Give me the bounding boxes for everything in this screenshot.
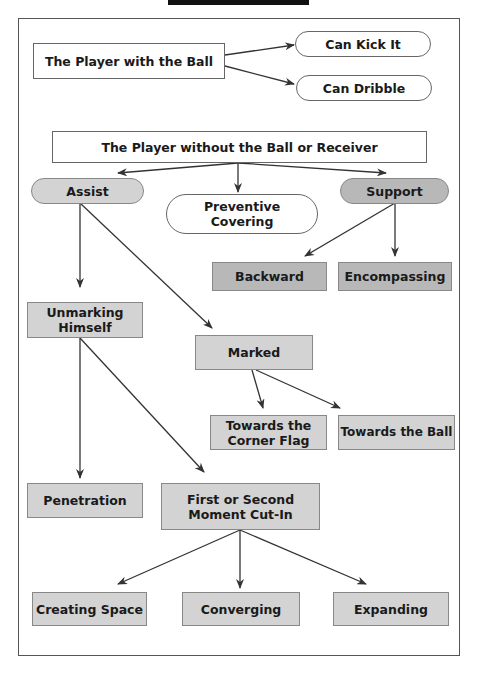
node-unmarking-himself: Unmarking Himself bbox=[27, 302, 143, 338]
node-first-second-cut-in: First or Second Moment Cut-In bbox=[161, 483, 320, 530]
node-support: Support bbox=[340, 178, 449, 204]
title-bar bbox=[168, 0, 309, 5]
node-towards-corner-flag: Towards the Corner Flag bbox=[210, 415, 327, 450]
node-expanding: Expanding bbox=[333, 592, 449, 626]
node-assist: Assist bbox=[31, 178, 144, 204]
node-can-kick-it: Can Kick It bbox=[295, 31, 431, 57]
node-encompassing: Encompassing bbox=[338, 262, 452, 291]
node-marked: Marked bbox=[195, 335, 313, 370]
node-player-without-ball: The Player without the Ball or Receiver bbox=[52, 131, 427, 163]
node-towards-ball: Towards the Ball bbox=[338, 415, 455, 450]
node-preventive-covering: Preventive Covering bbox=[166, 194, 318, 234]
node-player-with-ball: The Player with the Ball bbox=[33, 43, 225, 79]
node-can-dribble: Can Dribble bbox=[296, 75, 432, 101]
node-creating-space: Creating Space bbox=[32, 592, 147, 626]
node-converging: Converging bbox=[182, 592, 300, 626]
node-penetration: Penetration bbox=[27, 483, 143, 518]
node-backward: Backward bbox=[212, 262, 327, 291]
